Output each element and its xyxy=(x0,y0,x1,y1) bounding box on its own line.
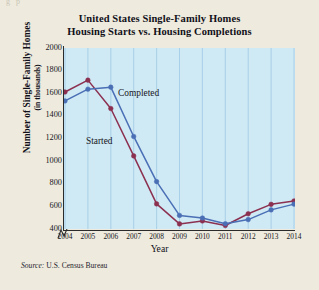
x-tick-label: 2007 xyxy=(122,232,146,241)
data-point-completed xyxy=(223,221,228,226)
data-point-completed xyxy=(64,99,67,104)
data-point-completed xyxy=(86,87,91,92)
x-axis-line xyxy=(63,230,295,231)
chart-title: United States Single-Family Homes Housin… xyxy=(0,13,319,38)
data-point-completed xyxy=(131,134,136,139)
x-tick-label: 2008 xyxy=(145,232,169,241)
source-text: U.S. Census Bureau xyxy=(46,261,107,270)
x-tick-label: 2006 xyxy=(99,232,123,241)
x-tick-label: 2014 xyxy=(282,232,306,241)
x-tick-label: 2012 xyxy=(236,232,260,241)
y-tick-label: 800 xyxy=(28,178,62,187)
page-scrap-text: g p xyxy=(6,0,22,6)
y-tick-label: 1800 xyxy=(28,65,62,74)
chart-page: g p United States Single-Family Homes Ho… xyxy=(0,0,319,290)
x-tick-label: 2011 xyxy=(213,232,237,241)
data-point-started xyxy=(86,78,91,83)
y-tick-label: 1600 xyxy=(28,88,62,97)
data-point-started xyxy=(109,106,114,111)
data-point-started xyxy=(177,222,182,227)
data-point-completed xyxy=(154,179,159,184)
source-label: Source: xyxy=(21,261,44,270)
data-point-started xyxy=(269,202,274,207)
y-tick-label: 1000 xyxy=(28,156,62,165)
x-tick-label: 2004 xyxy=(53,232,77,241)
y-axis-tick-labels: 400600800100012001400160018002000 xyxy=(22,48,62,229)
data-point-started xyxy=(246,211,251,216)
data-point-started xyxy=(154,202,159,207)
data-point-started xyxy=(131,154,136,159)
y-tick-label: 1200 xyxy=(28,133,62,142)
y-tick-label: 1400 xyxy=(28,110,62,119)
source-note: Source: U.S. Census Bureau xyxy=(21,261,107,270)
y-tick-label: 2000 xyxy=(28,43,62,52)
y-tick-label: 600 xyxy=(28,201,62,210)
data-point-completed xyxy=(177,213,182,218)
data-point-completed xyxy=(200,216,205,221)
data-point-completed xyxy=(109,85,114,90)
x-tick-label: 2009 xyxy=(168,232,192,241)
data-point-completed xyxy=(246,217,251,222)
data-point-started xyxy=(64,90,67,95)
x-tick-label: 2005 xyxy=(76,232,100,241)
data-point-completed xyxy=(292,202,295,207)
series-label-started: Started xyxy=(86,136,113,146)
chart-title-line2: Housing Starts vs. Housing Completions xyxy=(0,26,319,39)
data-point-completed xyxy=(269,208,274,213)
x-tick-label: 2010 xyxy=(190,232,214,241)
chart-title-line1: United States Single-Family Homes xyxy=(79,13,241,24)
series-label-completed: Completed xyxy=(118,88,159,98)
x-axis-title: Year xyxy=(0,243,319,254)
x-tick-label: 2013 xyxy=(259,232,283,241)
